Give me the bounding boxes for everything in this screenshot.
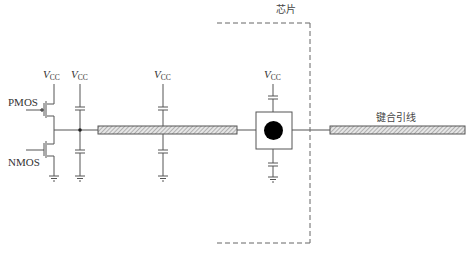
bond-wire-label: 键合引线: [376, 109, 416, 124]
nmos-label: NMOS: [8, 156, 40, 168]
junction-dot: [78, 128, 82, 132]
vcc-label-2: VCC: [71, 68, 88, 80]
vcc-label-3: VCC: [154, 68, 171, 80]
vcc-label-4: VCC: [264, 68, 281, 80]
hatched-trace: [98, 126, 237, 134]
ground-symbol: [49, 176, 59, 181]
pmos-label: PMOS: [8, 96, 38, 108]
vcc-label-1: VCC: [43, 68, 60, 80]
chip-label: 芯片: [276, 1, 296, 16]
pad-contact: [264, 121, 283, 140]
bond-wire: [330, 126, 465, 134]
bond-pad: [256, 84, 292, 182]
decoupling-cap-column-1: [75, 84, 85, 181]
circuit-diagram: [0, 0, 472, 253]
nmos-transistor: [26, 130, 54, 176]
